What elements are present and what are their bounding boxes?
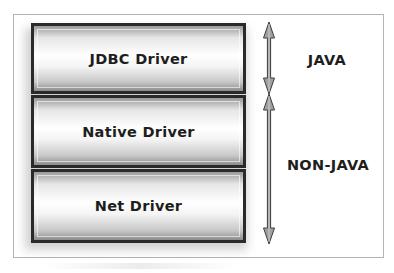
layer-net-driver: Net Driver bbox=[31, 169, 246, 243]
group-label-java: JAVA bbox=[296, 52, 358, 68]
layer-jdbc-driver: JDBC Driver bbox=[31, 23, 246, 94]
layer-label: Net Driver bbox=[95, 198, 183, 214]
caption-faded bbox=[40, 263, 240, 269]
layer-native-driver: Native Driver bbox=[31, 95, 246, 168]
layer-label: JDBC Driver bbox=[89, 51, 187, 67]
double-arrow-icon bbox=[262, 93, 276, 245]
layer-label: Native Driver bbox=[82, 124, 195, 140]
group-label-non-java: NON-JAVA bbox=[276, 157, 380, 173]
double-arrow-icon bbox=[262, 21, 276, 95]
